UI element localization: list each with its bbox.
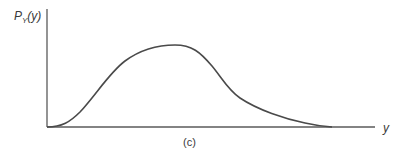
density-curve <box>47 45 332 127</box>
figure-caption: (c) <box>183 136 196 148</box>
density-chart: PY(y) y (c) <box>0 0 408 156</box>
x-axis-label: y <box>382 121 390 135</box>
y-axis-label: PY(y) <box>14 9 41 25</box>
